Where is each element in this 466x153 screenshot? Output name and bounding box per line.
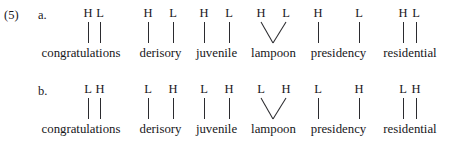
- word-group-residential: HLresidential: [378, 2, 442, 70]
- tone-label-l: L: [223, 6, 235, 21]
- word-label: presidency: [303, 45, 374, 61]
- tone-label-l: L: [198, 82, 210, 97]
- word-group-juvenile: HLjuvenile: [191, 2, 242, 70]
- association-lines-converging-v: [247, 21, 300, 44]
- tone-label-l: L: [280, 6, 292, 21]
- tone-label-l: L: [312, 82, 324, 97]
- tone-label-h: H: [280, 82, 292, 97]
- tone-tier: HL: [191, 6, 242, 21]
- association-lines-spread-vertical: [303, 97, 374, 120]
- tone-tier: HL: [133, 6, 188, 21]
- tone-label-h: H: [312, 6, 324, 21]
- word-group-congratulations: HLcongratulations: [38, 2, 124, 70]
- word-label: lampoon: [247, 121, 300, 137]
- association-lines-adjacent-vertical: [378, 97, 442, 120]
- word-label: juvenile: [191, 121, 242, 137]
- association-lines-converging-v: [247, 97, 300, 120]
- word-group-lampoon: HLlampoon: [247, 2, 300, 70]
- tone-label-l: L: [397, 82, 409, 97]
- association-lines-spread-vertical: [133, 21, 188, 44]
- association-lines-spread-vertical: [133, 97, 188, 120]
- tone-row-a: HLcongratulationsHLderisoryHLjuvenileHLl…: [0, 2, 466, 70]
- association-lines-spread-vertical: [191, 97, 242, 120]
- tone-tier: LH: [303, 82, 374, 97]
- word-label: residential: [378, 45, 442, 61]
- tone-label-l: L: [167, 6, 179, 21]
- tone-tier: LH: [191, 82, 242, 97]
- tone-tier: HL: [303, 6, 374, 21]
- tone-tier: LH: [38, 82, 124, 97]
- word-label: lampoon: [247, 45, 300, 61]
- tone-label-h: H: [94, 82, 106, 97]
- tone-tier: HL: [38, 6, 124, 21]
- tone-label-h: H: [397, 6, 409, 21]
- word-group-congratulations: LHcongratulations: [38, 78, 124, 146]
- tone-tier: LH: [133, 82, 188, 97]
- word-group-residential: LHresidential: [378, 78, 442, 146]
- tone-tier: LH: [247, 82, 300, 97]
- word-label: presidency: [303, 121, 374, 137]
- word-label: juvenile: [191, 45, 242, 61]
- word-label: derisory: [133, 121, 188, 137]
- tone-label-h: H: [410, 82, 422, 97]
- tone-label-h: H: [142, 6, 154, 21]
- tone-label-h: H: [255, 6, 267, 21]
- association-lines-spread-vertical: [303, 21, 374, 44]
- word-label: congratulations: [38, 45, 124, 61]
- tone-label-h: H: [353, 82, 365, 97]
- word-group-presidency: HLpresidency: [303, 2, 374, 70]
- association-lines-spread-vertical: [191, 21, 242, 44]
- word-group-derisory: HLderisory: [133, 2, 188, 70]
- word-label: congratulations: [38, 121, 124, 137]
- tone-label-h: H: [167, 82, 179, 97]
- word-group-presidency: LHpresidency: [303, 78, 374, 146]
- tone-tier: HL: [247, 6, 300, 21]
- word-group-juvenile: LHjuvenile: [191, 78, 242, 146]
- word-group-lampoon: LHlampoon: [247, 78, 300, 146]
- word-label: derisory: [133, 45, 188, 61]
- tone-tier: LH: [378, 82, 442, 97]
- association-lines-adjacent-vertical: [38, 97, 124, 120]
- tone-label-h: H: [223, 82, 235, 97]
- tone-label-l: L: [82, 82, 94, 97]
- tone-label-l: L: [255, 82, 267, 97]
- tone-label-l: L: [94, 6, 106, 21]
- word-label: residential: [378, 121, 442, 137]
- word-group-derisory: LHderisory: [133, 78, 188, 146]
- association-lines-adjacent-vertical: [38, 21, 124, 44]
- tone-label-l: L: [353, 6, 365, 21]
- tone-tier: HL: [378, 6, 442, 21]
- tone-label-l: L: [142, 82, 154, 97]
- tone-label-h: H: [82, 6, 94, 21]
- tone-label-h: H: [198, 6, 210, 21]
- association-lines-adjacent-vertical: [378, 21, 442, 44]
- tone-row-b: LHcongratulationsLHderisoryLHjuvenileLHl…: [0, 78, 466, 146]
- tone-label-l: L: [410, 6, 422, 21]
